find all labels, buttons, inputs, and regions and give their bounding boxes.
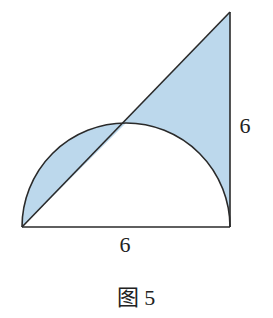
geometry-figure: 6 6 图 5 — [0, 0, 273, 318]
bottom-side-label: 6 — [120, 232, 131, 257]
figure-caption: 图 5 — [117, 285, 156, 310]
right-side-label: 6 — [240, 113, 251, 138]
